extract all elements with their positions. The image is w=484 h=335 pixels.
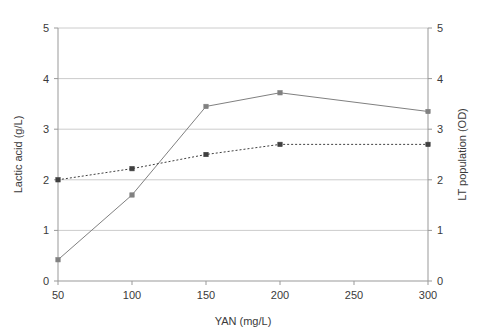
y-tick-label-left-3: 3 [43, 123, 49, 135]
y-tick-label-right-2: 2 [437, 174, 443, 186]
data-point-1-0 [56, 178, 60, 182]
chart-background [0, 0, 484, 335]
data-point-0-4 [426, 109, 430, 113]
data-point-1-2 [204, 152, 208, 156]
y-tick-label-left-0: 0 [43, 275, 49, 287]
data-point-0-1 [130, 193, 134, 197]
chart-container: 01234501234550100150200250300 YAN (mg/L)… [0, 0, 484, 335]
y-axis-title-right: LT population (OD) [456, 108, 468, 201]
data-point-1-3 [278, 142, 282, 146]
x-tick-label-150: 150 [197, 289, 215, 301]
x-tick-label-100: 100 [123, 289, 141, 301]
y-axis-title-left: Lactic acid (g/L) [12, 116, 24, 194]
x-axis-title: YAN (mg/L) [215, 315, 272, 327]
data-point-0-3 [278, 91, 282, 95]
data-point-1-1 [130, 166, 134, 170]
y-tick-label-right-1: 1 [437, 224, 443, 236]
y-tick-label-right-5: 5 [437, 22, 443, 34]
y-tick-label-right-4: 4 [437, 73, 443, 85]
x-tick-label-250: 250 [345, 289, 363, 301]
x-tick-label-200: 200 [271, 289, 289, 301]
data-point-1-4 [426, 142, 430, 146]
y-tick-label-left-4: 4 [43, 73, 49, 85]
x-tick-label-50: 50 [52, 289, 64, 301]
y-tick-label-right-0: 0 [437, 275, 443, 287]
data-point-0-2 [204, 104, 208, 108]
data-point-0-0 [56, 258, 60, 262]
y-tick-label-right-3: 3 [437, 123, 443, 135]
y-tick-label-left-1: 1 [43, 224, 49, 236]
y-tick-label-left-5: 5 [43, 22, 49, 34]
x-tick-label-300: 300 [419, 289, 437, 301]
y-tick-label-left-2: 2 [43, 174, 49, 186]
line-chart: 01234501234550100150200250300 YAN (mg/L)… [0, 0, 484, 335]
